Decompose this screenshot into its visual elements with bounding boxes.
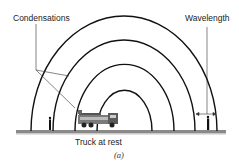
truck-label: Truck at rest bbox=[75, 137, 122, 147]
figure-caption: (a) bbox=[114, 150, 124, 160]
arc-4 bbox=[31, 16, 217, 131]
observer-right bbox=[207, 116, 209, 130]
wavelength-marker bbox=[196, 27, 216, 116]
wavelength-label: Wavelength bbox=[185, 13, 230, 23]
condensations-leaders bbox=[36, 24, 75, 108]
arc-1 bbox=[97, 90, 152, 131]
condensations-label: Condensations bbox=[13, 13, 70, 23]
observer-left bbox=[49, 117, 51, 130]
condensation-arcs bbox=[31, 16, 217, 131]
fire-truck bbox=[78, 110, 118, 128]
